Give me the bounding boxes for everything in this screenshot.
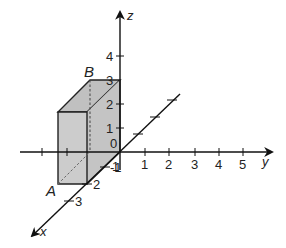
x-tick-2: 2 [93,177,100,192]
y-tick-2: 2 [165,157,172,172]
x-axis-label: x [39,224,47,239]
y-tick-4: 4 [215,157,222,172]
coordinate-diagram: z y x 4 3 2 1 0 -1 1 2 3 4 5 1 2 3 A B [0,0,286,248]
diagram-canvas: z y x 4 3 2 1 0 -1 1 2 3 4 5 1 2 3 A B [0,0,286,248]
x-tick-3: 3 [75,194,82,209]
y-tick-3: 3 [191,157,198,172]
origin-label: 0 [110,136,117,151]
z-tick-1: 1 [106,121,113,136]
point-b-label: B [84,63,94,80]
point-a-label: A [45,182,56,199]
z-tick-3: 3 [106,73,113,88]
x-tick-1: 1 [112,159,119,174]
z-axis-label: z [126,8,134,23]
y-tick-5: 5 [239,157,246,172]
y-axis-label: y [261,154,270,169]
z-tick-2: 2 [106,97,113,112]
box-front-face [58,112,87,184]
z-tick-4: 4 [106,49,113,64]
y-tick-1: 1 [141,157,148,172]
